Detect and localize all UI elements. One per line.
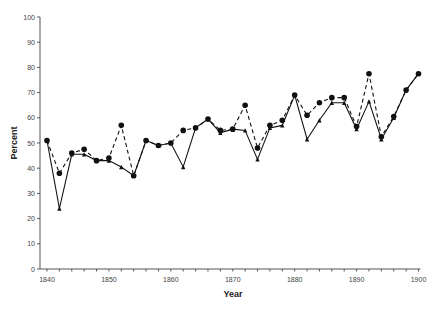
y-tick-label: 20 xyxy=(27,215,35,222)
triangle-marker xyxy=(119,165,123,169)
circle-marker xyxy=(119,123,125,129)
circle-marker xyxy=(304,112,310,118)
y-tick-label: 50 xyxy=(27,140,35,147)
circle-marker xyxy=(329,95,335,101)
circle-marker xyxy=(366,71,372,77)
circle-marker xyxy=(242,102,248,108)
circle-marker xyxy=(57,170,63,176)
circle-marker xyxy=(180,128,186,134)
x-tick-label: 1880 xyxy=(287,276,303,283)
line-chart: 0102030405060708090100 18401850186018701… xyxy=(0,0,439,310)
y-tick-label: 80 xyxy=(27,64,35,71)
circle-marker xyxy=(341,95,347,101)
x-tick-label: 1850 xyxy=(101,276,117,283)
x-tick-label: 1840 xyxy=(39,276,55,283)
y-axis: 0102030405060708090100 xyxy=(23,14,40,273)
circle-marker xyxy=(255,145,261,151)
x-tick-label: 1870 xyxy=(225,276,241,283)
x-tick-label: 1900 xyxy=(411,276,427,283)
y-axis-title: Percent xyxy=(9,126,19,159)
triangle-marker xyxy=(367,99,371,103)
y-tick-label: 90 xyxy=(27,39,35,46)
circle-marker xyxy=(317,100,323,106)
series-1 xyxy=(44,71,421,179)
y-tick-label: 100 xyxy=(23,14,35,21)
circle-marker xyxy=(81,147,87,153)
y-tick-label: 60 xyxy=(27,114,35,121)
triangle-marker xyxy=(255,157,259,161)
x-tick-label: 1890 xyxy=(349,276,365,283)
x-tick-label: 1860 xyxy=(163,276,179,283)
y-tick-label: 10 xyxy=(27,240,35,247)
y-tick-label: 30 xyxy=(27,190,35,197)
plot-area xyxy=(44,71,421,211)
y-tick-label: 40 xyxy=(27,165,35,172)
triangle-marker xyxy=(57,206,61,210)
series-line xyxy=(47,74,419,209)
triangle-marker xyxy=(181,165,185,169)
x-axis-title: Year xyxy=(223,289,243,299)
x-axis: 1840185018601870188018901900 xyxy=(39,269,426,283)
y-tick-label: 0 xyxy=(31,266,35,273)
y-tick-label: 70 xyxy=(27,89,35,96)
